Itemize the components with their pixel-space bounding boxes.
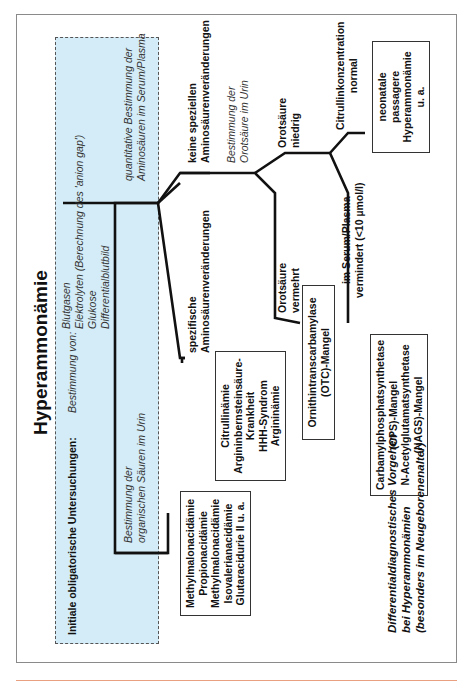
box-otc-deficiency: Ornithintranscarbamylase(OTC)-Mangel — [302, 285, 335, 440]
flowchart-page: Hyperammonämie Initiale obligatorische U… — [0, 0, 471, 693]
amino-acids-test: quantitative Bestimmung derAminosäuren i… — [122, 33, 147, 181]
branch-specific: spezifischeAminosäurenveränderungen — [186, 210, 211, 353]
box-urea-cycle-disorders: CitrullinämieArgininbernsteinsäure-Krank… — [215, 351, 286, 481]
initial-test-item: Elektrolyten (Berechnung des 'anion gap'… — [73, 135, 86, 329]
branch-citrulline-low: im Serum/Plasmavermindert (<10 µmol/l) — [340, 183, 365, 298]
branch-orotic-low: Orotsäureniedrig — [276, 98, 301, 148]
branch-orotic-high: Orotsäurevermehrt — [276, 263, 301, 313]
box-transient-hyperammonemia: neonatalepassagereHyperammonämieu. a. — [372, 41, 430, 153]
initial-test-item: Blutgasen — [60, 282, 73, 329]
initial-tests-sublabel: Bestimmung von: — [66, 332, 79, 413]
branch-citrulline-normal: Citrullinkonzentrationnormal — [334, 22, 359, 131]
initial-test-item: Differentialblutbild — [99, 246, 112, 329]
branch-nonspecific: keine speziellenAminosäurenveränderungen — [186, 20, 211, 163]
figure-caption: Differentialdiagnostisches Vorgehenbei H… — [385, 434, 427, 633]
initial-test-item: Glukose — [86, 290, 99, 329]
initial-tests-label: Initiale obligatorische Untersuchungen: — [66, 437, 79, 635]
orotic-acid-test: Bestimmung derOrotsäure im Urin — [225, 80, 250, 163]
organic-acids-test: Bestimmung derorganischen Säuren im Urin — [122, 413, 147, 543]
page-title: Hyperammonämie — [30, 270, 52, 435]
box-organic-acidemias: MethylmalonacidämiePropionacidämieMethyl… — [180, 491, 251, 616]
